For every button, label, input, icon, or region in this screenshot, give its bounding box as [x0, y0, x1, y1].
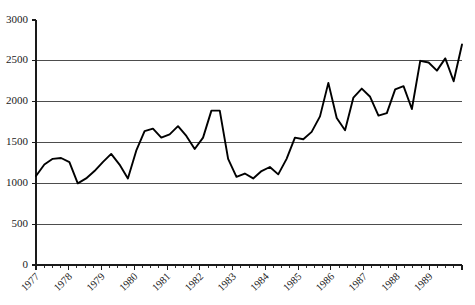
data-series [36, 45, 462, 184]
line-chart: 050010001500200025003000 197719781979198… [0, 0, 475, 305]
y-tick-labels: 050010001500200025003000 [6, 13, 29, 270]
x-tick-label-1978: 1978 [52, 271, 75, 294]
chart-canvas: 050010001500200025003000 197719781979198… [0, 0, 475, 305]
y-tick-label-2500: 2500 [6, 53, 29, 65]
x-tick-label-1984: 1984 [248, 270, 271, 293]
y-tick-label-1000: 1000 [6, 176, 29, 188]
x-tick-label-1981: 1981 [150, 271, 173, 294]
x-tick-labels: 1977197819791980198119821983198419851986… [19, 270, 435, 293]
x-tick-label-1979: 1979 [84, 271, 107, 294]
x-tick-label-1980: 1980 [117, 271, 140, 294]
x-tick-label-1977: 1977 [19, 271, 42, 294]
x-tick-label-1987: 1987 [346, 271, 369, 294]
y-tick-label-2000: 2000 [6, 94, 29, 106]
x-tick-label-1983: 1983 [215, 271, 238, 294]
y-tick-label-500: 500 [12, 217, 29, 229]
x-tick-label-1988: 1988 [379, 271, 402, 294]
y-tick-label-3000: 3000 [6, 13, 29, 25]
y-tick-label-1500: 1500 [6, 135, 29, 147]
series-1-line [36, 45, 462, 184]
x-tick-marks [36, 265, 462, 270]
gridlines [36, 61, 462, 224]
x-tick-label-1985: 1985 [281, 271, 304, 294]
x-tick-label-1986: 1986 [314, 271, 337, 294]
x-tick-label-1982: 1982 [183, 271, 206, 294]
y-tick-label-0: 0 [23, 258, 29, 270]
x-tick-label-1989: 1989 [412, 271, 435, 294]
